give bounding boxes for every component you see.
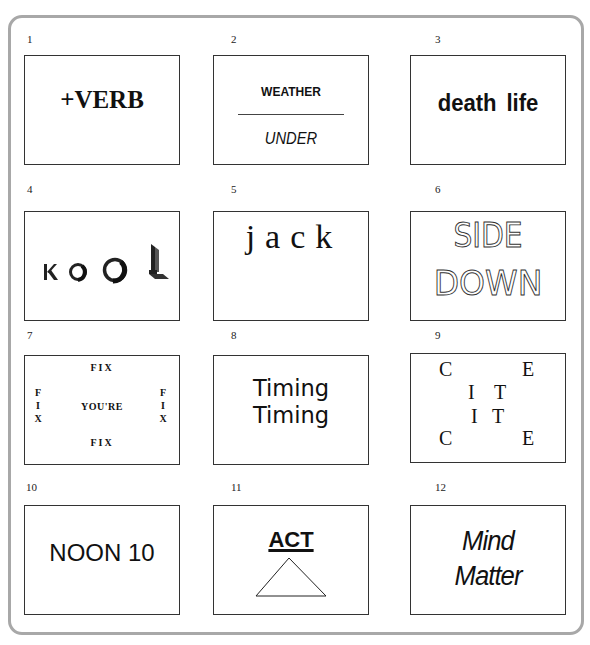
puzzle-text-right: F I X [157, 386, 169, 425]
puzzle-text: jack [214, 218, 368, 256]
letter: F [32, 386, 44, 399]
puzzle-number: 1 [27, 33, 33, 45]
puzzle-box-2: WEATHER UNDER [213, 55, 369, 165]
divider-line [238, 114, 344, 115]
puzzle-number: 7 [27, 329, 33, 341]
letter: T [492, 405, 504, 428]
puzzle-line: Timing [216, 375, 367, 402]
letter: F [157, 386, 169, 399]
puzzle-number: 11 [231, 481, 242, 493]
puzzle-box-7: FIX F I X YOU'RE F I X FIX [24, 355, 180, 465]
letter: E [522, 427, 534, 450]
letter: I [471, 405, 478, 428]
puzzle-text-top: FIX [25, 362, 179, 373]
puzzle-text-top: WEATHER [214, 85, 368, 99]
puzzle-number: 10 [26, 481, 37, 493]
puzzle-text-center: YOU'RE [25, 401, 179, 412]
letter: C [439, 358, 452, 381]
puzzle-text: Timing Timing [216, 375, 367, 429]
puzzle-number: 4 [27, 183, 33, 195]
letter: X [32, 412, 44, 425]
puzzle-text-bottom: DOWN [411, 264, 565, 303]
triangle-icon [254, 556, 330, 598]
puzzle-box-4 [24, 211, 180, 321]
letter: I [468, 381, 475, 404]
puzzle-box-3: death life [410, 55, 566, 165]
letter: E [522, 358, 534, 381]
puzzle-number: 9 [435, 329, 441, 341]
puzzle-number: 12 [435, 481, 446, 493]
puzzle-text: death life [417, 89, 559, 117]
puzzle-text-top: SIDE [411, 216, 565, 255]
puzzle-box-9: C E I T I T C E [410, 353, 566, 463]
puzzle-box-10: NOON 10 [24, 505, 180, 615]
puzzle-number: 8 [231, 329, 237, 341]
puzzle-box-11: ACT [213, 505, 369, 615]
puzzle-text-bottom: FIX [25, 437, 179, 448]
puzzle-box-5: jack [213, 211, 369, 321]
puzzle-line: Mind [415, 524, 561, 559]
puzzle-number: 3 [435, 33, 441, 45]
puzzle-text: NOON 10 [25, 539, 179, 567]
puzzle-text-bottom: UNDER [220, 130, 362, 148]
puzzle-box-1: +VERB [24, 55, 180, 165]
puzzle-box-8: Timing Timing [213, 355, 369, 465]
puzzle-text: Mind Matter [415, 524, 561, 594]
puzzle-box-6: SIDE DOWN [410, 211, 566, 321]
letter: X [157, 412, 169, 425]
letter: C [439, 427, 452, 450]
puzzle-box-12: Mind Matter [410, 505, 566, 615]
puzzle-text: +VERB [25, 86, 179, 114]
puzzle-line: Matter [415, 559, 561, 594]
letter: T [494, 381, 506, 404]
puzzle-number: 5 [231, 183, 237, 195]
puzzle-number: 6 [435, 183, 441, 195]
puzzle-line: Timing [216, 402, 367, 429]
letter: I [157, 399, 169, 412]
puzzle-number: 2 [231, 33, 237, 45]
kool-stylized-text [25, 212, 180, 321]
puzzle-text: ACT [214, 527, 368, 553]
